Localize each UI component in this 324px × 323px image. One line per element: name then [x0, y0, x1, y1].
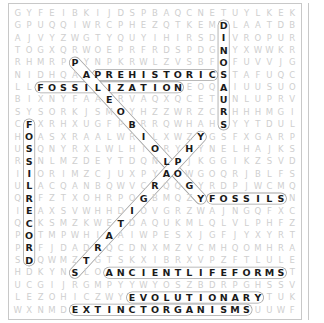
- grid-cell[interactable]: Y: [23, 7, 34, 19]
- grid-cell[interactable]: S: [115, 254, 126, 266]
- grid-cell[interactable]: J: [46, 242, 57, 254]
- grid-cell[interactable]: A: [35, 180, 46, 192]
- grid-cell[interactable]: L: [104, 131, 115, 143]
- grid-cell[interactable]: X: [252, 229, 263, 241]
- grid-cell[interactable]: E: [149, 267, 160, 279]
- grid-cell[interactable]: N: [195, 7, 206, 19]
- grid-cell[interactable]: C: [115, 242, 126, 254]
- grid-cell[interactable]: Y: [195, 192, 206, 204]
- grid-cell[interactable]: R: [46, 168, 57, 180]
- grid-cell[interactable]: X: [58, 131, 69, 143]
- grid-cell[interactable]: L: [12, 81, 23, 93]
- grid-cell[interactable]: M: [46, 229, 57, 241]
- grid-cell[interactable]: P: [104, 56, 115, 68]
- grid-cell[interactable]: P: [115, 19, 126, 31]
- grid-cell[interactable]: S: [69, 267, 80, 279]
- grid-cell[interactable]: Q: [104, 242, 115, 254]
- grid-cell[interactable]: L: [229, 143, 240, 155]
- grid-cell[interactable]: I: [12, 205, 23, 217]
- grid-cell[interactable]: R: [206, 180, 217, 192]
- grid-cell[interactable]: U: [275, 32, 286, 44]
- grid-cell[interactable]: C: [81, 291, 92, 303]
- grid-cell[interactable]: U: [264, 304, 275, 316]
- grid-cell[interactable]: F: [275, 217, 286, 229]
- grid-cell[interactable]: W: [115, 180, 126, 192]
- grid-cell[interactable]: B: [287, 19, 298, 31]
- grid-cell[interactable]: R: [241, 291, 252, 303]
- grid-cell[interactable]: N: [206, 143, 217, 155]
- grid-cell[interactable]: Z: [184, 205, 195, 217]
- grid-cell[interactable]: Y: [58, 94, 69, 106]
- grid-cell[interactable]: E: [92, 155, 103, 167]
- grid-cell[interactable]: D: [287, 155, 298, 167]
- grid-cell[interactable]: H: [184, 143, 195, 155]
- grid-cell[interactable]: J: [58, 279, 69, 291]
- grid-cell[interactable]: R: [287, 32, 298, 44]
- grid-cell[interactable]: D: [126, 217, 137, 229]
- grid-cell[interactable]: N: [218, 291, 229, 303]
- grid-cell[interactable]: H: [184, 118, 195, 130]
- grid-cell[interactable]: A: [81, 69, 92, 81]
- grid-cell[interactable]: X: [161, 131, 172, 143]
- grid-cell[interactable]: R: [12, 155, 23, 167]
- grid-cell[interactable]: H: [126, 69, 137, 81]
- grid-cell[interactable]: Z: [161, 106, 172, 118]
- grid-cell[interactable]: Y: [115, 279, 126, 291]
- grid-cell[interactable]: O: [138, 205, 149, 217]
- grid-cell[interactable]: A: [81, 131, 92, 143]
- grid-cell[interactable]: Q: [229, 242, 240, 254]
- grid-cell[interactable]: E: [23, 205, 34, 217]
- grid-cell[interactable]: C: [264, 180, 275, 192]
- grid-cell[interactable]: T: [12, 44, 23, 56]
- grid-cell[interactable]: I: [218, 32, 229, 44]
- grid-cell[interactable]: D: [58, 242, 69, 254]
- grid-cell[interactable]: A: [35, 205, 46, 217]
- grid-cell[interactable]: I: [252, 192, 263, 204]
- grid-cell[interactable]: O: [81, 192, 92, 204]
- grid-cell[interactable]: J: [195, 229, 206, 241]
- grid-cell[interactable]: R: [184, 106, 195, 118]
- grid-cell[interactable]: I: [287, 106, 298, 118]
- grid-cell[interactable]: Y: [241, 229, 252, 241]
- grid-cell[interactable]: Q: [138, 155, 149, 167]
- grid-cell[interactable]: T: [161, 69, 172, 81]
- grid-cell[interactable]: T: [115, 217, 126, 229]
- grid-cell[interactable]: A: [104, 229, 115, 241]
- grid-cell[interactable]: V: [229, 217, 240, 229]
- grid-cell[interactable]: F: [252, 69, 263, 81]
- grid-cell[interactable]: E: [115, 69, 126, 81]
- grid-cell[interactable]: A: [12, 32, 23, 44]
- grid-cell[interactable]: S: [275, 267, 286, 279]
- grid-cell[interactable]: A: [138, 217, 149, 229]
- grid-cell[interactable]: U: [172, 291, 183, 303]
- grid-cell[interactable]: U: [264, 69, 275, 81]
- grid-cell[interactable]: S: [195, 32, 206, 44]
- grid-cell[interactable]: W: [69, 229, 80, 241]
- grid-cell[interactable]: M: [184, 217, 195, 229]
- grid-cell[interactable]: I: [195, 267, 206, 279]
- grid-cell[interactable]: M: [161, 242, 172, 254]
- grid-cell[interactable]: I: [81, 81, 92, 93]
- grid-cell[interactable]: E: [195, 19, 206, 31]
- grid-cell[interactable]: C: [126, 304, 137, 316]
- grid-cell[interactable]: U: [264, 254, 275, 266]
- grid-cell[interactable]: F: [229, 131, 240, 143]
- grid-cell[interactable]: H: [241, 106, 252, 118]
- grid-cell[interactable]: P: [138, 7, 149, 19]
- grid-cell[interactable]: D: [218, 19, 229, 31]
- grid-cell[interactable]: L: [161, 155, 172, 167]
- grid-cell[interactable]: Q: [161, 180, 172, 192]
- grid-cell[interactable]: W: [81, 19, 92, 31]
- grid-cell[interactable]: B: [126, 118, 137, 130]
- grid-cell[interactable]: D: [195, 44, 206, 56]
- grid-cell[interactable]: T: [252, 118, 263, 130]
- grid-cell[interactable]: R: [115, 94, 126, 106]
- grid-cell[interactable]: S: [218, 69, 229, 81]
- grid-cell[interactable]: W: [172, 118, 183, 130]
- grid-cell[interactable]: U: [252, 81, 263, 93]
- grid-cell[interactable]: F: [138, 44, 149, 56]
- grid-cell[interactable]: X: [69, 192, 80, 204]
- grid-cell[interactable]: O: [149, 291, 160, 303]
- grid-cell[interactable]: C: [184, 7, 195, 19]
- grid-cell[interactable]: X: [46, 205, 57, 217]
